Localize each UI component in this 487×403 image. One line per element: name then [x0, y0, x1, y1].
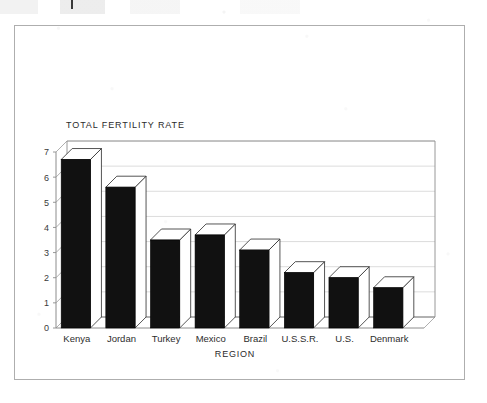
y-tick-label: 3 [44, 248, 49, 258]
bar-front-face [195, 235, 224, 328]
scan-tick-artifact [71, 0, 73, 9]
x-category-label: U.S. [335, 333, 353, 344]
y-axis-tick-labels: 01234567 [44, 147, 49, 333]
bar-front-face [150, 240, 179, 328]
bar-side-face [90, 149, 101, 328]
x-category-label: Turkey [152, 333, 181, 344]
y-tick-label: 7 [44, 147, 49, 157]
bar-front-face [374, 288, 403, 328]
x-category-label: Mexico [196, 333, 226, 344]
bar-front-face [61, 160, 90, 328]
y-tick-label: 1 [44, 298, 49, 308]
x-category-label: U.S.S.R. [281, 333, 318, 344]
x-category-label: Kenya [63, 333, 91, 344]
bar-front-face [106, 187, 135, 328]
y-tick-label: 4 [44, 223, 49, 233]
bar-side-face [180, 229, 191, 328]
x-category-label: Jordan [107, 333, 136, 344]
bar-chart-plot: 01234567 KenyaJordanTurkeyMexicoBrazilU.… [0, 0, 487, 403]
x-axis-category-labels: KenyaJordanTurkeyMexicoBrazilU.S.S.R.U.S… [63, 333, 408, 344]
bar-front-face [240, 250, 269, 328]
bar-side-face [269, 239, 280, 328]
y-tick-label: 6 [44, 173, 49, 183]
y-tick-label: 0 [44, 323, 49, 333]
bar-side-face [314, 262, 325, 328]
bar-side-face [224, 224, 235, 328]
y-tick-label: 5 [44, 198, 49, 208]
x-axis-title: REGION [215, 349, 255, 359]
bar-side-face [135, 176, 146, 328]
bar-front-face [284, 273, 313, 328]
x-category-label: Denmark [370, 333, 409, 344]
y-tick-label: 2 [44, 273, 49, 283]
bar-front-face [329, 278, 358, 328]
bars-group [61, 149, 414, 328]
x-category-label: Brazil [243, 333, 267, 344]
chart-title: TOTAL FERTILITY RATE [66, 120, 185, 130]
